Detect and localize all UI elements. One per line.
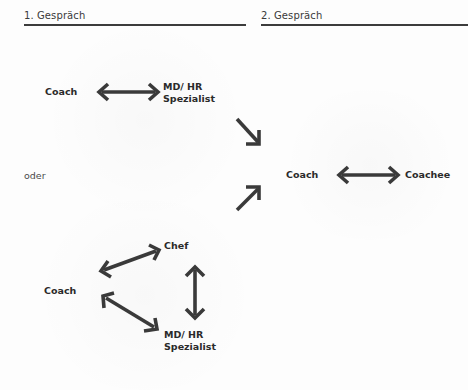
coach-coachee-double-arrow-icon — [339, 167, 398, 183]
coach-md-diagonal-double-arrow-icon — [103, 293, 157, 331]
arrow-up-right-icon — [237, 187, 259, 210]
coach-chef-double-arrow-icon — [101, 245, 159, 277]
coach-md-double-arrow-icon — [99, 84, 158, 100]
arrow-down-right-icon — [237, 119, 259, 144]
chef-md-vertical-double-arrow-icon — [186, 267, 204, 318]
